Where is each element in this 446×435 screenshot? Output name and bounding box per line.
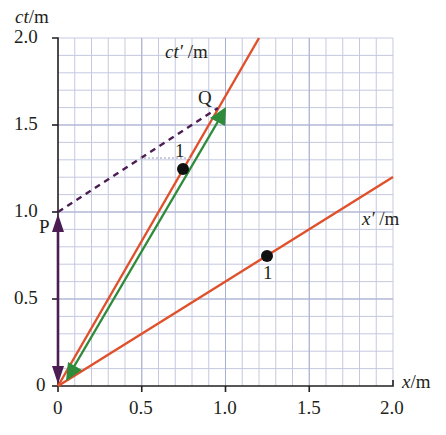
x-axis-label: x/m: [402, 371, 431, 393]
point-q-label: Q: [198, 87, 212, 109]
ct-prime-unit-mark: 1: [175, 140, 185, 162]
y-tick-1-5: 1.5: [14, 113, 38, 135]
point-p-label: P: [39, 216, 50, 238]
x-prime-unit-mark: 1: [263, 262, 273, 284]
x-prime-label: x′ /m: [362, 208, 399, 230]
green-double-arrow: [66, 107, 226, 381]
x-tick-0: 0: [53, 397, 63, 419]
x-tick-1-0: 1.0: [213, 397, 237, 419]
y-axis-label: ct/m: [15, 6, 49, 28]
y-tick-0-5: 0.5: [14, 287, 38, 309]
ct-prime-unit-dot: [177, 163, 189, 175]
x-tick-2-0: 2.0: [380, 397, 404, 419]
x-tick-0-5: 0.5: [129, 397, 153, 419]
axes: [52, 38, 393, 392]
y-tick-0: 0: [36, 374, 46, 396]
y-tick-2-0: 2.0: [14, 26, 38, 48]
y-tick-1-0: 1.0: [14, 200, 38, 222]
x-tick-1-5: 1.5: [297, 397, 321, 419]
x-prime-unit-dot: [261, 250, 273, 262]
ct-prime-label: ct′ /m: [165, 41, 208, 63]
